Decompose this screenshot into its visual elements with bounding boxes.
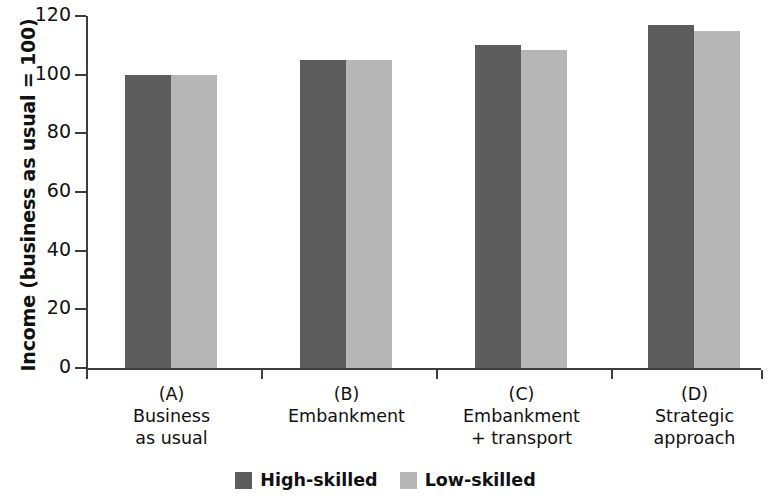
x-tick-mark <box>611 370 613 379</box>
category-name-line2: approach <box>607 427 771 449</box>
y-tick-mark <box>75 367 86 369</box>
x-axis-line <box>86 368 761 370</box>
category-name-line2: + transport <box>434 427 609 449</box>
y-tick-label: 0 <box>0 357 71 376</box>
legend-swatch-high <box>235 472 252 489</box>
y-tick-mark <box>75 250 86 252</box>
legend-label: High-skilled <box>260 470 377 490</box>
x-tick-mark <box>761 370 763 379</box>
x-tick-mark <box>261 370 263 379</box>
bar-low-skilled <box>171 75 217 368</box>
bars-layer <box>86 16 761 368</box>
y-tick-label: 100 <box>0 64 71 83</box>
bar-high-skilled <box>648 25 694 368</box>
y-tick-label: 60 <box>0 181 71 200</box>
y-tick-mark <box>75 191 86 193</box>
x-category-label: (C)Embankment+ transport <box>434 383 609 449</box>
category-name-line2: as usual <box>84 427 259 449</box>
x-tick-mark <box>86 370 88 379</box>
x-category-label: (D)Strategicapproach <box>607 383 771 449</box>
x-category-label: (B)Embankment <box>259 383 434 427</box>
category-code: (B) <box>259 383 434 405</box>
category-code: (C) <box>434 383 609 405</box>
y-tick-label: 120 <box>0 5 71 24</box>
x-tick-mark <box>436 370 438 379</box>
y-tick-mark <box>75 308 86 310</box>
x-category-label: (A)Businessas usual <box>84 383 259 449</box>
bar-high-skilled <box>475 45 521 368</box>
category-name-line1: Strategic <box>607 405 771 427</box>
chart-legend: High-skilledLow-skilled <box>0 470 771 490</box>
bar-low-skilled <box>521 50 567 368</box>
category-name-line1: Business <box>84 405 259 427</box>
legend-item: Low-skilled <box>400 470 536 490</box>
bar-low-skilled <box>346 60 392 368</box>
y-tick-mark <box>75 132 86 134</box>
category-name-line1: Embankment <box>259 405 434 427</box>
category-name-line1: Embankment <box>434 405 609 427</box>
y-tick-mark <box>75 74 86 76</box>
bar-chart: Income (business as usual = 100) 0204060… <box>0 0 771 501</box>
category-code: (D) <box>607 383 771 405</box>
y-tick-mark <box>75 15 86 17</box>
y-tick-label: 20 <box>0 298 71 317</box>
y-tick-label: 80 <box>0 122 71 141</box>
bar-high-skilled <box>300 60 346 368</box>
legend-item: High-skilled <box>235 470 377 490</box>
legend-label: Low-skilled <box>425 470 536 490</box>
bar-low-skilled <box>694 31 740 368</box>
category-code: (A) <box>84 383 259 405</box>
legend-swatch-low <box>400 472 417 489</box>
bar-high-skilled <box>125 75 171 368</box>
y-tick-label: 40 <box>0 240 71 259</box>
